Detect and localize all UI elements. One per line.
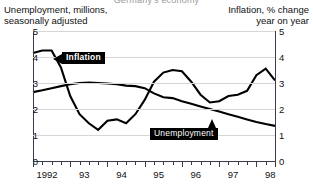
x-tick-label-98: 98: [265, 169, 276, 180]
x-tick: [219, 161, 220, 167]
x-tick: [89, 161, 90, 165]
unemployment-callout: Unemployment: [150, 128, 218, 140]
x-tick: [275, 161, 276, 167]
x-tick-label-95: 95: [153, 169, 164, 180]
x-tick: [70, 161, 71, 167]
series-line-unemployment: [33, 82, 275, 125]
x-tick: [191, 161, 192, 165]
y-tick-label-right-2: 2: [279, 105, 295, 114]
x-tick-label-1992: 1992: [36, 169, 57, 180]
gridline: [33, 109, 275, 110]
x-tick: [61, 161, 62, 165]
x-tick: [210, 161, 211, 165]
gridline: [33, 31, 275, 32]
left-axis-title: Unemployment, millions, seasonally adjus…: [4, 5, 107, 26]
inflation-callout-arrow-icon: [53, 54, 62, 64]
y-tick-label-left-3: 3: [22, 79, 38, 88]
y-tick-label-right-4: 4: [279, 53, 295, 62]
x-tick: [238, 161, 239, 165]
y-tick-label-right-5: 5: [279, 27, 295, 36]
x-tick: [126, 161, 127, 165]
y-tick-label-right-0: 0: [279, 157, 295, 166]
y-tick-label-left-1: 1: [22, 131, 38, 140]
y-axis-left: [33, 31, 34, 162]
x-tick: [201, 161, 202, 165]
x-tick: [33, 161, 34, 167]
inflation-callout: Inflation: [62, 52, 105, 64]
x-tick: [266, 161, 267, 165]
x-tick: [173, 161, 174, 165]
y-tick-label-right-1: 1: [279, 131, 295, 140]
y-tick-label-left-2: 2: [22, 105, 38, 114]
x-tick-label-96: 96: [191, 169, 202, 180]
x-tick: [163, 161, 164, 165]
y-tick-label-right-3: 3: [279, 79, 295, 88]
y-axis-right: [275, 31, 276, 162]
x-tick: [98, 161, 99, 165]
x-tick: [52, 161, 53, 165]
plot-area: [33, 31, 275, 161]
chart-container: Germany's economy Unemployment, millions…: [0, 0, 313, 185]
x-tick: [117, 161, 118, 165]
x-tick-label-97: 97: [228, 169, 239, 180]
x-tick: [42, 161, 43, 165]
x-tick: [182, 161, 183, 167]
unemployment-callout-arrow-stem: [211, 124, 213, 130]
y-tick-label-left-0: 0: [22, 157, 38, 166]
right-axis-title: Inflation, % change year on year: [228, 5, 309, 26]
x-tick: [256, 161, 257, 167]
x-tick: [247, 161, 248, 165]
x-tick-label-94: 94: [116, 169, 127, 180]
series-lines: [33, 31, 275, 161]
gridline: [33, 83, 275, 84]
x-tick: [135, 161, 136, 165]
x-tick: [228, 161, 229, 165]
x-tick: [145, 161, 146, 167]
y-tick-label-left-5: 5: [22, 27, 38, 36]
x-tick-label-93: 93: [79, 169, 90, 180]
x-tick: [107, 161, 108, 167]
x-tick: [154, 161, 155, 165]
x-tick: [80, 161, 81, 165]
y-tick-label-left-4: 4: [22, 53, 38, 62]
